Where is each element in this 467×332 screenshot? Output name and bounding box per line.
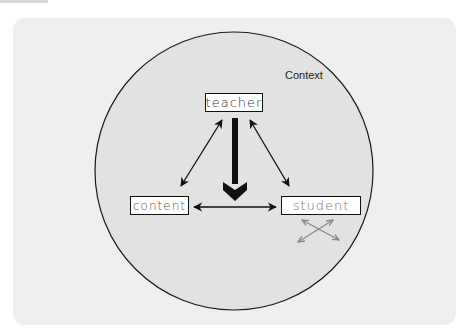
context-label: Context	[285, 69, 323, 81]
node-teacher: teacher	[205, 93, 263, 112]
node-content: content	[130, 196, 189, 215]
diagram-canvas	[0, 0, 467, 332]
node-student: student	[281, 196, 361, 215]
